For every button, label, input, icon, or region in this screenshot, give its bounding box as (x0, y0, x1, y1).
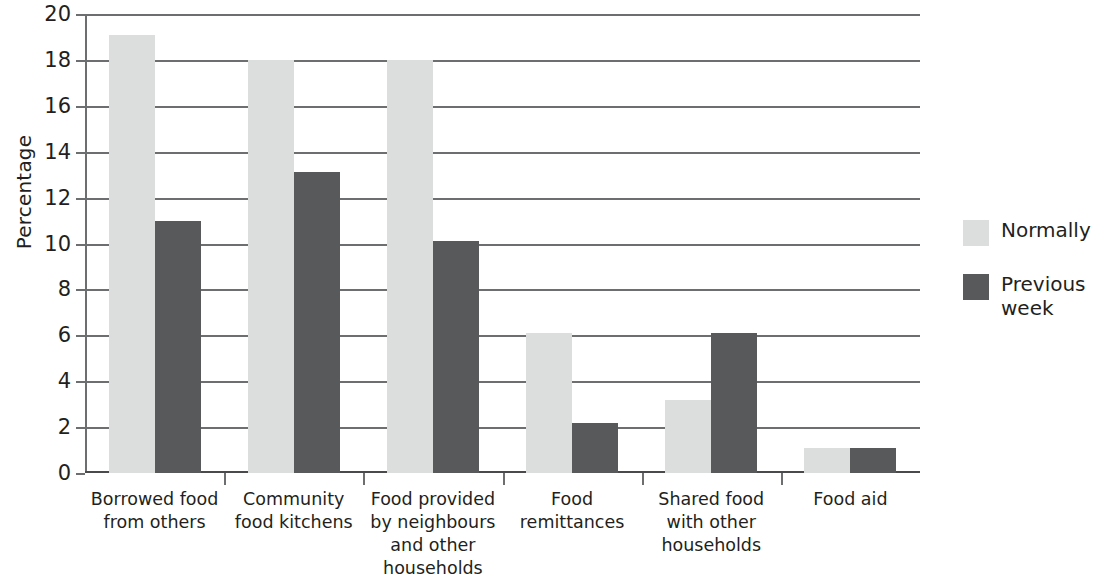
legend: Normally Previous week (963, 218, 1093, 347)
legend-swatch-previous-week (963, 274, 989, 300)
y-tick-label: 6 (58, 325, 71, 346)
gridline (85, 244, 920, 246)
x-tick-mark (781, 473, 783, 485)
category-label-line: Food aid (813, 489, 887, 509)
bar-normally (109, 35, 155, 473)
y-tick-mark (76, 427, 85, 429)
gridline (85, 335, 920, 337)
y-tick-label: 10 (44, 233, 71, 254)
y-tick-mark (76, 14, 85, 16)
y-axis-title: Percentage (12, 112, 36, 272)
category-label-line: Food provided (371, 489, 495, 509)
y-tick-mark (76, 198, 85, 200)
category-label: Foodremittances (503, 488, 642, 534)
category-label-line: Community (243, 489, 344, 509)
gridline (85, 14, 920, 16)
y-tick-mark (76, 335, 85, 337)
y-tick-label: 16 (44, 95, 71, 116)
y-tick-mark (76, 289, 85, 291)
x-tick-mark (503, 473, 505, 485)
gridline (85, 60, 920, 62)
y-tick-label: 14 (44, 141, 71, 162)
gridline (85, 152, 920, 154)
category-label-line: with other (667, 512, 756, 532)
category-label: Communityfood kitchens (224, 488, 363, 534)
legend-label-previous-week: Previous week (1001, 272, 1086, 321)
category-label-line: Shared food (658, 489, 764, 509)
bar-normally (526, 333, 572, 473)
legend-item-normally: Normally (963, 218, 1093, 246)
gridline (85, 106, 920, 108)
category-label: Borrowed foodfrom others (85, 488, 224, 534)
bar-previous-week (711, 333, 757, 473)
bar-normally (387, 60, 433, 473)
bar-previous-week (294, 172, 340, 473)
y-tick-label: 18 (44, 49, 71, 70)
category-label-line: remittances (520, 512, 625, 532)
y-tick-label: 2 (58, 417, 71, 438)
category-label-line: from others (104, 512, 206, 532)
category-label: Shared foodwith otherhouseholds (642, 488, 781, 557)
bar-chart: Percentage 02468101214161820 Borrowed fo… (0, 0, 1096, 580)
legend-label-line: week (1001, 296, 1054, 320)
plot-area: 02468101214161820 (85, 14, 920, 473)
x-tick-mark (642, 473, 644, 485)
y-tick-mark (76, 152, 85, 154)
legend-swatch-normally (963, 220, 989, 246)
y-tick-mark (76, 244, 85, 246)
category-label: Food aid (781, 488, 920, 511)
bar-normally (804, 448, 850, 473)
gridline (85, 427, 920, 429)
category-label-line: by neighbours (370, 512, 495, 532)
category-label-line: Borrowed food (91, 489, 219, 509)
y-tick-mark (76, 473, 85, 475)
bar-normally (248, 60, 294, 473)
bar-normally (665, 400, 711, 473)
legend-item-previous-week: Previous week (963, 272, 1093, 321)
bar-previous-week (155, 221, 201, 473)
y-tick-label: 8 (58, 279, 71, 300)
category-label-line: households (383, 558, 483, 578)
category-label-line: households (661, 535, 761, 555)
bar-previous-week (572, 423, 618, 473)
y-tick-mark (76, 106, 85, 108)
y-tick-mark (76, 60, 85, 62)
y-tick-label: 20 (44, 4, 71, 25)
category-label-line: food kitchens (235, 512, 353, 532)
y-tick-label: 4 (58, 371, 71, 392)
bar-previous-week (850, 448, 896, 473)
gridline (85, 289, 920, 291)
y-tick-label: 12 (44, 187, 71, 208)
legend-label-normally: Normally (1001, 218, 1091, 242)
y-tick-mark (76, 381, 85, 383)
gridline (85, 381, 920, 383)
x-tick-mark (363, 473, 365, 485)
gridline (85, 198, 920, 200)
category-label-line: and other (390, 535, 475, 555)
x-tick-mark (224, 473, 226, 485)
bar-previous-week (433, 241, 479, 473)
y-tick-label: 0 (58, 463, 71, 484)
category-label: Food providedby neighboursand otherhouse… (363, 488, 502, 580)
legend-label-line: Previous (1001, 272, 1086, 296)
category-label-line: Food (551, 489, 593, 509)
